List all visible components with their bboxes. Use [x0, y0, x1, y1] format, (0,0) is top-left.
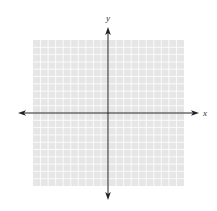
x-axis-label: x	[202, 108, 207, 118]
y-axis-label: y	[105, 13, 110, 23]
coordinate-plane: x y	[0, 0, 217, 211]
